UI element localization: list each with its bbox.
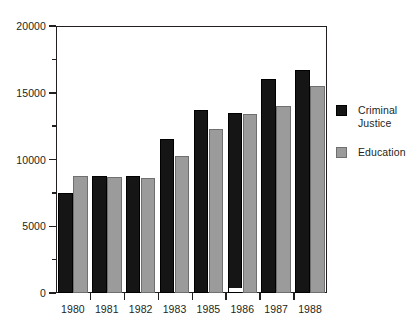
bar xyxy=(58,193,73,293)
bar xyxy=(261,79,276,293)
legend-swatch-criminal-justice xyxy=(336,105,347,116)
y-tick-mark xyxy=(49,226,56,228)
x-tick-mark xyxy=(293,293,295,300)
bars-layer xyxy=(56,26,327,293)
x-tick-mark xyxy=(124,293,126,300)
y-tick-label: 0 xyxy=(40,286,46,300)
y-tick-mark xyxy=(49,92,56,94)
bar-render-artifact xyxy=(229,288,244,292)
chart-legend: Criminal Justice Education xyxy=(336,104,412,175)
bar xyxy=(295,70,310,293)
x-tick-label-1981: 1981 xyxy=(90,302,124,316)
bar xyxy=(209,129,224,293)
y-axis: 05000100001500020000 xyxy=(0,26,56,293)
x-tick-label-1980: 1980 xyxy=(56,302,90,316)
bar xyxy=(126,176,141,293)
x-tick-label-1983: 1983 xyxy=(158,302,192,316)
bar xyxy=(107,177,122,293)
legend-entry-education: Education xyxy=(336,146,412,159)
bar-chart: 05000100001500020000 1980198119821983198… xyxy=(0,0,412,323)
x-tick-mark xyxy=(90,293,92,300)
legend-entry-criminal-justice: Criminal Justice xyxy=(336,104,412,130)
y-tick-mark xyxy=(49,159,56,161)
bar xyxy=(141,178,156,293)
y-tick-label: 10000 xyxy=(16,153,46,167)
x-tick-mark xyxy=(225,293,227,300)
y-tick-label: 20000 xyxy=(16,19,46,33)
bar xyxy=(160,139,175,293)
x-tick-label-1988: 1988 xyxy=(293,302,327,316)
x-tick-mark xyxy=(158,293,160,300)
x-tick-label-1987: 1987 xyxy=(259,302,293,316)
legend-label-criminal-justice: Criminal Justice xyxy=(358,104,412,130)
bar xyxy=(228,113,243,293)
x-tick-label-1986: 1986 xyxy=(225,302,259,316)
y-tick-mark xyxy=(49,292,56,294)
y-tick-mark xyxy=(49,25,56,27)
bar xyxy=(310,86,325,293)
y-tick-label: 5000 xyxy=(22,219,46,233)
bar xyxy=(175,156,190,293)
x-tick-mark xyxy=(192,293,194,300)
x-tick-label-1985: 1985 xyxy=(192,302,226,316)
bar xyxy=(92,176,107,293)
bar xyxy=(243,114,258,293)
x-tick-label-1982: 1982 xyxy=(124,302,158,316)
x-tick-mark xyxy=(259,293,261,300)
bar xyxy=(276,106,291,293)
bar xyxy=(73,176,88,293)
x-axis: 19801981198219831985198619871988 xyxy=(56,293,327,323)
y-tick-label: 15000 xyxy=(16,86,46,100)
bar xyxy=(194,110,209,293)
legend-swatch-education xyxy=(336,147,347,158)
legend-label-education: Education xyxy=(358,146,412,159)
